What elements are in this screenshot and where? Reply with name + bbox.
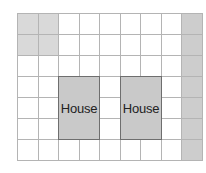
grid-cell	[141, 14, 162, 35]
grid-cell	[162, 140, 183, 161]
grid-cell	[39, 77, 60, 98]
grid-cell	[59, 14, 80, 35]
grid-cell	[18, 140, 39, 161]
grid-cell	[162, 56, 183, 77]
grid-cell	[18, 119, 39, 140]
grid-cell	[141, 56, 162, 77]
grid-cell	[80, 35, 101, 56]
grid-cell	[100, 140, 121, 161]
grid-cell	[121, 35, 142, 56]
house-1-label: House	[61, 101, 98, 116]
grid-cell	[18, 98, 39, 119]
grid-cell	[121, 140, 142, 161]
grid-cell	[162, 14, 183, 35]
grid-cell	[100, 35, 121, 56]
grid-cell	[39, 35, 60, 56]
grid-cell	[100, 77, 121, 98]
grid-cell	[18, 77, 39, 98]
grid-cell	[162, 77, 183, 98]
grid-cell	[18, 35, 39, 56]
grid-cell	[59, 35, 80, 56]
site-grid	[17, 13, 203, 161]
grid-cell	[182, 56, 203, 77]
house-1: House	[58, 76, 100, 140]
grid-cell	[39, 56, 60, 77]
grid-cell	[100, 98, 121, 119]
grid-cell	[162, 35, 183, 56]
grid-cell	[39, 14, 60, 35]
grid-cell	[80, 14, 101, 35]
grid-cell	[182, 140, 203, 161]
grid-cell	[80, 140, 101, 161]
grid-cell	[39, 119, 60, 140]
grid-cell	[141, 35, 162, 56]
grid-cell	[39, 98, 60, 119]
grid-cell	[141, 140, 162, 161]
grid-cell	[182, 98, 203, 119]
grid-cell	[100, 14, 121, 35]
grid-cell	[162, 119, 183, 140]
grid-cell	[182, 14, 203, 35]
grid-cell	[121, 14, 142, 35]
grid-cell	[100, 119, 121, 140]
grid-cell	[100, 56, 121, 77]
house-2: House	[120, 76, 162, 140]
grid-cell	[59, 56, 80, 77]
grid-cell	[18, 14, 39, 35]
grid-cell	[59, 140, 80, 161]
grid-cell	[162, 98, 183, 119]
grid-cell	[182, 119, 203, 140]
grid-cell	[182, 77, 203, 98]
grid-cell	[182, 35, 203, 56]
grid-cell	[18, 56, 39, 77]
house-2-label: House	[123, 101, 160, 116]
grid-cell	[121, 56, 142, 77]
grid-cell	[39, 140, 60, 161]
grid-cell	[80, 56, 101, 77]
